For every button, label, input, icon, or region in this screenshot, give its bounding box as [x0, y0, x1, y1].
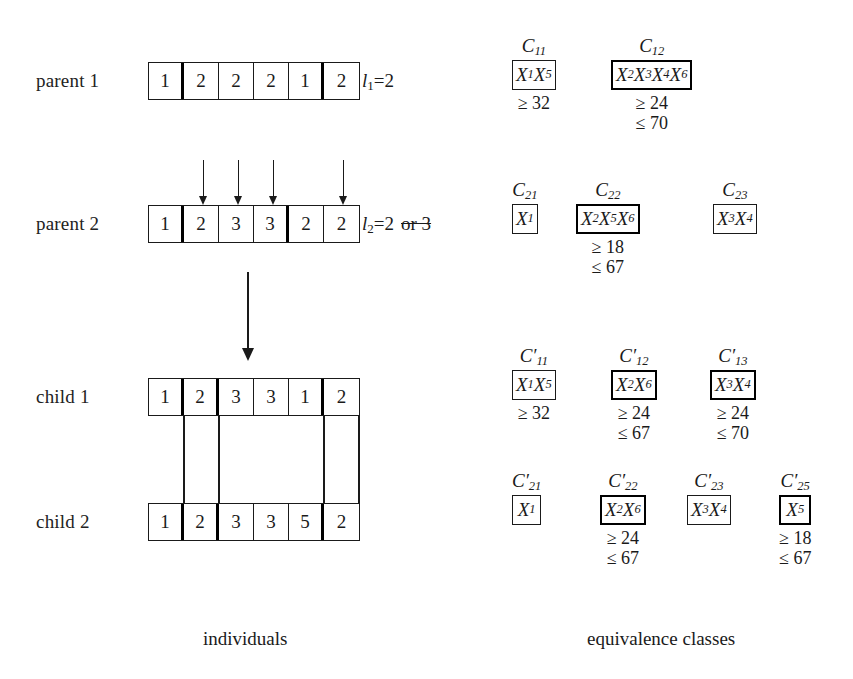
equivalence-class-box: X2X5X6: [576, 204, 640, 234]
equivalence-class: C′11X1X5≥ 32: [512, 346, 556, 423]
mutation-arrow-head-2: [234, 196, 242, 205]
equivalence-class-box: X1X5: [512, 60, 556, 90]
row-label-parent-2: parent 2: [36, 213, 99, 235]
mutation-arrow-head-3: [269, 196, 277, 205]
equivalence-class-name: C11: [512, 36, 556, 58]
row-label-child-1: child 1: [36, 386, 90, 408]
equivalence-class-box: X3X4: [687, 495, 731, 525]
gene-cell: 1: [289, 63, 324, 99]
mutation-arrow-shaft-1: [203, 160, 204, 198]
equivalence-class: C′13X3X4≥ 24≤ 70: [710, 346, 756, 443]
equivalence-class-name: C22: [576, 180, 640, 202]
bound-value: ≥ 32: [512, 93, 556, 113]
caption-individuals: individuals: [203, 628, 287, 650]
gene-cell: 3: [219, 379, 254, 415]
l-value-parent-1: l1=2: [362, 70, 394, 94]
equivalence-class-bounds: ≥ 32: [512, 93, 556, 113]
equivalence-class-name: C23: [713, 180, 757, 202]
equivalence-class-bounds: ≥ 32: [512, 403, 556, 423]
gene-cell: 3: [219, 504, 254, 540]
l-value-parent-2: l2=2or 3: [362, 213, 431, 237]
equivalence-class-name: C′21: [512, 471, 541, 493]
equivalence-class-bounds: ≥ 24≤ 67: [600, 528, 646, 568]
equivalence-class-box: X1: [512, 204, 538, 234]
bound-value: ≤ 67: [576, 257, 640, 277]
gene-cell: 1: [149, 206, 184, 242]
equivalence-class-box: X3X4: [710, 370, 756, 400]
equivalence-class-box: X5: [779, 495, 811, 525]
chromosome-strip-child-2: 123352: [148, 503, 360, 541]
gene-cell: 1: [149, 63, 184, 99]
gene-cell: 2: [184, 63, 219, 99]
bound-value: ≥ 18: [779, 528, 811, 548]
equivalence-class-name: C′11: [512, 346, 556, 368]
equivalence-class: C22X2X5X6≥ 18≤ 67: [576, 180, 640, 277]
equivalence-class-name: C′22: [600, 471, 646, 493]
l-alternative-struck-parent-2: or 3: [401, 213, 431, 234]
gene-cell: 1: [149, 504, 184, 540]
gene-cell: 2: [324, 379, 359, 415]
gene-cell: 3: [254, 379, 289, 415]
equivalence-class-box: X2X3X4X6: [611, 60, 692, 90]
gene-cell: 2: [324, 63, 359, 99]
equivalence-class: C23X3X4: [713, 180, 757, 234]
bound-value: ≥ 32: [512, 403, 556, 423]
equivalence-class-box: X1: [512, 495, 541, 525]
equivalence-class-bounds: ≥ 24≤ 67: [611, 403, 657, 443]
bound-value: ≤ 67: [779, 548, 811, 568]
gene-cell: 1: [289, 379, 324, 415]
bound-value: ≤ 67: [600, 548, 646, 568]
bound-value: ≤ 70: [611, 113, 692, 133]
gene-cell: 2: [324, 504, 359, 540]
equivalence-class-box: X2X6: [600, 495, 646, 525]
bound-value: ≥ 24: [611, 93, 692, 113]
equivalence-class-name: C′13: [710, 346, 756, 368]
gene-cell: 2: [219, 63, 254, 99]
row-label-parent-1: parent 1: [36, 70, 99, 92]
bound-value: ≥ 24: [600, 528, 646, 548]
equivalence-class: C11X1X5≥ 32: [512, 36, 556, 113]
gene-cell: 3: [254, 206, 289, 242]
equivalence-class-bounds: ≥ 24≤ 70: [710, 403, 756, 443]
equivalence-class: C′22X2X6≥ 24≤ 67: [600, 471, 646, 568]
equivalence-class-name: C21: [512, 180, 538, 202]
gene-cell: 2: [324, 206, 359, 242]
bound-value: ≤ 67: [611, 423, 657, 443]
mutation-arrow-shaft-2: [238, 160, 239, 198]
equivalence-class-box: X1X5: [512, 370, 556, 400]
gene-cell: 2: [184, 504, 219, 540]
gene-cell: 2: [184, 206, 219, 242]
mutation-arrow-head-4: [339, 196, 347, 205]
equivalence-class-bounds: ≥ 24≤ 70: [611, 93, 692, 133]
crossover-arrow-shaft: [247, 272, 249, 350]
bound-value: ≥ 24: [710, 403, 756, 423]
equivalence-class-box: X2X6: [611, 370, 657, 400]
equivalence-class: C′12X2X6≥ 24≤ 67: [611, 346, 657, 443]
equivalence-class: C12X2X3X4X6≥ 24≤ 70: [611, 36, 692, 133]
crossover-figure: parent 1 122212 l1=2 parent 2 123322 l2=…: [0, 0, 853, 679]
gene-cell: 3: [219, 206, 254, 242]
equivalence-class-bounds: ≥ 18≤ 67: [576, 237, 640, 277]
gene-cell: 2: [184, 379, 219, 415]
chromosome-strip-parent-2: 123322: [148, 205, 360, 243]
equivalence-class-box: X3X4: [713, 204, 757, 234]
gene-cell: 5: [289, 504, 324, 540]
equivalence-class: C′25X5≥ 18≤ 67: [779, 471, 811, 568]
equivalence-class-bounds: ≥ 18≤ 67: [779, 528, 811, 568]
row-label-child-2: child 2: [36, 511, 90, 533]
equivalence-class: C′21X1: [512, 471, 541, 525]
bound-value: ≥ 18: [576, 237, 640, 257]
caption-equivalence-classes: equivalence classes: [587, 628, 735, 650]
mutation-arrow-shaft-3: [273, 160, 274, 198]
gene-cell: 2: [254, 63, 289, 99]
equivalence-class-name: C′25: [779, 471, 811, 493]
l-assign-parent-1: =2: [374, 70, 394, 91]
l-assign-parent-2: =2: [374, 213, 394, 234]
mutation-arrow-head-1: [199, 196, 207, 205]
chromosome-strip-child-1: 123312: [148, 378, 360, 416]
equivalence-class-name: C12: [611, 36, 692, 58]
gene-cell: 2: [289, 206, 324, 242]
equivalence-class: C21X1: [512, 180, 538, 234]
bound-value: ≥ 24: [611, 403, 657, 423]
gene-cell: 1: [149, 379, 184, 415]
